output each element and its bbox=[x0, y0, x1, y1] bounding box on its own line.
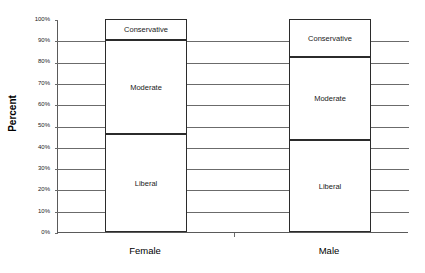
bar-female[interactable]: Liberal Moderate Conservative bbox=[105, 19, 187, 232]
y-tick-mark-30 bbox=[55, 169, 58, 170]
segment-label-moderate: Moderate bbox=[314, 94, 346, 103]
y-tick-mark-90 bbox=[55, 41, 58, 42]
y-tick-label-50: 50% bbox=[24, 122, 50, 129]
y-axis-title: Percent bbox=[7, 84, 18, 144]
y-tick-mark-0 bbox=[55, 233, 58, 234]
y-tick-label-30: 30% bbox=[24, 165, 50, 172]
y-tick-mark-100 bbox=[55, 20, 58, 21]
segment-label-moderate: Moderate bbox=[130, 83, 162, 92]
y-tick-mark-70 bbox=[55, 84, 58, 85]
y-tick-label-90: 90% bbox=[24, 37, 50, 44]
segment-label-liberal: Liberal bbox=[135, 179, 158, 188]
y-tick-label-100: 100% bbox=[24, 16, 50, 23]
bar-segment-male-conservative[interactable]: Conservative bbox=[289, 19, 371, 57]
segment-label-liberal: Liberal bbox=[319, 182, 342, 191]
segment-label-conservative: Conservative bbox=[124, 25, 168, 34]
y-tick-label-80: 80% bbox=[24, 58, 50, 65]
y-tick-label-40: 40% bbox=[24, 144, 50, 151]
y-tick-mark-50 bbox=[55, 127, 58, 128]
plot-area: Liberal Moderate Conservative Liberal Mo… bbox=[57, 20, 408, 233]
x-category-label-male: Male bbox=[288, 245, 370, 256]
bar-segment-male-moderate[interactable]: Moderate bbox=[289, 57, 371, 140]
y-tick-label-10: 10% bbox=[24, 208, 50, 215]
bar-segment-male-liberal[interactable]: Liberal bbox=[289, 140, 371, 232]
y-tick-mark-60 bbox=[55, 105, 58, 106]
bar-segment-female-conservative[interactable]: Conservative bbox=[105, 19, 187, 40]
bar-male[interactable]: Liberal Moderate Conservative bbox=[289, 19, 371, 232]
y-tick-label-60: 60% bbox=[24, 101, 50, 108]
y-tick-mark-80 bbox=[55, 63, 58, 64]
x-category-label-female: Female bbox=[104, 245, 186, 256]
y-tick-mark-40 bbox=[55, 148, 58, 149]
y-tick-label-70: 70% bbox=[24, 80, 50, 87]
y-tick-mark-20 bbox=[55, 190, 58, 191]
y-tick-label-0: 0% bbox=[24, 229, 50, 236]
y-tick-mark-10 bbox=[55, 212, 58, 213]
bar-segment-female-liberal[interactable]: Liberal bbox=[105, 134, 187, 232]
x-tick-mark-separator bbox=[234, 233, 235, 237]
bar-segment-female-moderate[interactable]: Moderate bbox=[105, 40, 187, 134]
y-tick-label-20: 20% bbox=[24, 186, 50, 193]
stacked-bar-chart: Percent 100% 90% 80% 70% 60% 50% 40% 30%… bbox=[0, 0, 425, 273]
segment-label-conservative: Conservative bbox=[308, 34, 352, 43]
